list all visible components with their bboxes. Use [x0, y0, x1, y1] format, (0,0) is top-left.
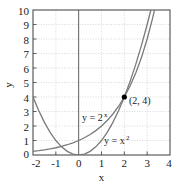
- y-tick-label-3: 3: [24, 106, 30, 118]
- y-tick-label-8: 8: [24, 34, 30, 46]
- y-tick-label-7: 7: [24, 48, 30, 60]
- curve-label-quadratic-exponent: 2: [126, 134, 130, 142]
- y-tick-label-5: 5: [24, 77, 30, 89]
- y-tick-label-2: 2: [24, 121, 30, 133]
- y-tick-label-10: 10: [18, 5, 30, 17]
- y-tick-label-6: 6: [24, 63, 30, 75]
- curve-label-exponential-text: y = 2: [82, 112, 103, 123]
- x-tick-label-0: 0: [76, 157, 82, 169]
- intersection-point-marker: [122, 94, 127, 99]
- intersection-point-label: (2, 4): [129, 95, 151, 107]
- y-axis-title: y: [2, 82, 14, 88]
- function-plot: 10 9 8 7 6 5 4 3 2 1 0 -2 -1 0 1 2 3 4 x…: [0, 0, 186, 187]
- y-tick-label-1: 1: [24, 135, 30, 147]
- y-tick-label-9: 9: [24, 19, 30, 31]
- curve-label-quadratic-text: y = x: [104, 135, 125, 146]
- x-tick-label-1: 1: [99, 157, 105, 169]
- x-tick-label-4: 4: [166, 157, 172, 169]
- x-tick-label--2: -2: [31, 157, 40, 169]
- y-tick-label-0: 0: [24, 148, 30, 160]
- chart-figure: 10 9 8 7 6 5 4 3 2 1 0 -2 -1 0 1 2 3 4 x…: [0, 0, 186, 187]
- x-tick-label-3: 3: [144, 157, 150, 169]
- curve-label-exponential-exponent: x: [104, 111, 108, 119]
- x-tick-label-2: 2: [122, 157, 128, 169]
- x-axis-title: x: [99, 171, 105, 183]
- y-tick-label-4: 4: [24, 92, 30, 104]
- x-tick-label--1: -1: [51, 157, 60, 169]
